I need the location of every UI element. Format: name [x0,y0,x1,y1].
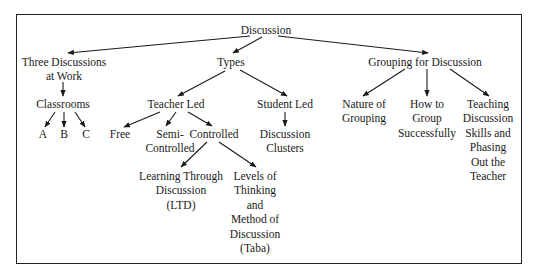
node-label-line: at Work [22,69,107,83]
node-teaching-discussion-skills: TeachingDiscussionSkills andPhasingOut t… [463,97,513,183]
node-types: Types [217,55,244,69]
node-label-line: Free [110,127,130,141]
node-label-line: Three Discussions [22,55,107,69]
node-label-line: Semi- [145,127,194,141]
node-label-line: Teacher Led [148,97,205,111]
node-label-line: Discussion [139,183,223,197]
edge-discussion-to-grouping [278,36,428,53]
node-teacher-led: Teacher Led [148,97,205,111]
edge-teacher-led-to-controlled [188,112,212,126]
node-label-line: Nature of [342,97,386,111]
node-label-line: Successfully [398,126,456,140]
node-label-line: C [82,127,90,141]
edge-classrooms-to-a [45,112,55,127]
node-label-line: Teaching [463,97,513,111]
node-label-line: Classrooms [36,97,90,111]
node-a: A [39,127,47,141]
node-label-line: How to [398,97,456,111]
edge-controlled-to-taba [219,142,256,167]
node-label-line: Learning Through [139,169,223,183]
node-label-line: A [39,127,47,141]
edge-types-to-student-led [240,70,287,96]
node-label-line: Controlled [145,141,194,155]
edge-types-to-teacher-led [178,71,225,96]
node-label-line: Discussion [230,227,280,241]
node-label-line: Teacher [463,169,513,183]
node-label-line: (Taba) [230,241,280,255]
node-student-led: Student Led [257,97,313,111]
node-label-line: Out the [463,155,513,169]
node-label-line: Group [398,111,456,125]
node-label-line: Student Led [257,97,313,111]
node-label-line: B [60,127,68,141]
node-c: C [82,127,90,141]
edge-teacher-led-to-semi-controlled [166,112,176,126]
node-label-line: Method of [230,212,280,226]
node-b: B [60,127,68,141]
node-nature-of-grouping: Nature ofGrouping [342,97,386,126]
node-grouping: Grouping for Discussion [368,55,482,69]
edge-grouping-to-teaching-discussion-skills [450,69,489,96]
node-three-discussions: Three Discussionsat Work [22,55,107,84]
node-label-line: and [230,198,280,212]
node-label-line: Controlled [189,127,238,141]
node-how-to-group: How toGroupSuccessfully [398,97,456,140]
node-label-line: Grouping for Discussion [368,55,482,69]
node-label-line: Phasing [463,140,513,154]
node-semi-controlled: Semi-Controlled [145,127,194,156]
node-label-line: Levels of [230,169,280,183]
node-free: Free [110,127,130,141]
node-label-line: Grouping [342,111,386,125]
discussion-concept-map: DiscussionThree Discussionsat WorkTypesG… [0,0,535,280]
edge-discussion-to-three-discussions [68,36,250,53]
node-label-line: Discussion [260,127,310,141]
edge-grouping-to-nature-of-grouping [363,69,405,96]
node-label-line: Discussion [241,23,291,37]
node-label-line: Clusters [260,141,310,155]
node-discussion: Discussion [241,23,291,37]
node-label-line: Types [217,55,244,69]
edge-teacher-led-to-free [124,112,160,127]
node-label-line: Discussion [463,111,513,125]
node-label-line: (LTD) [139,198,223,212]
node-ltd: Learning ThroughDiscussion(LTD) [139,169,223,212]
edge-classrooms-to-c [75,112,85,127]
node-discussion-clusters: DiscussionClusters [260,127,310,156]
node-classrooms: Classrooms [36,97,90,111]
edge-discussion-to-types [233,37,262,53]
node-controlled: Controlled [189,127,238,141]
node-label-line: Thinking [230,183,280,197]
node-label-line: Skills and [463,126,513,140]
node-taba: Levels ofThinkingandMethod ofDiscussion(… [230,169,280,255]
